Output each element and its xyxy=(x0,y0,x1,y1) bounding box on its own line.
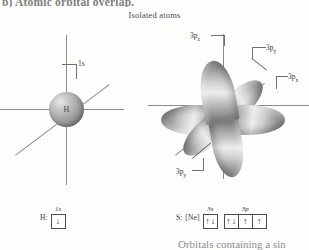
sulfur-label-3py-lower-left-base: 3p xyxy=(176,167,184,176)
sulfur-subshell-3s-boxes xyxy=(203,214,218,229)
arrow-up-icon xyxy=(205,217,210,226)
arrow-up-icon xyxy=(226,217,231,226)
hydrogen-nucleus-label: H xyxy=(49,92,84,127)
orbital-box xyxy=(238,214,253,229)
sulfur-label-3px-right: 3px xyxy=(288,73,298,83)
sulfur-label-3px-right-base: 3p xyxy=(288,72,296,81)
orbital-box xyxy=(51,214,66,229)
arrow-down-icon xyxy=(211,217,216,226)
sulfur-label-3py-lower-left-sub: y xyxy=(184,172,187,178)
sulfur-config-symbol: S: xyxy=(176,213,182,222)
orbital-box-arrows xyxy=(52,215,65,228)
sulfur-label-3pz-top: 3pz xyxy=(190,32,200,42)
sulfur-label-3py-upper-right-base: 3p xyxy=(266,43,274,52)
cropped-heading-text: b) Atomic orbital overlap. xyxy=(2,0,192,7)
sulfur-leader-3pz-top xyxy=(211,35,225,46)
arrow-up-icon xyxy=(257,217,262,226)
hydrogen-config-symbol: H: xyxy=(40,213,48,222)
hydrogen-1s-label: 1s xyxy=(78,60,85,68)
sulfur-leader-3py-lower-left xyxy=(192,158,204,171)
orbital-box xyxy=(203,214,218,229)
cropped-caption-text: Orbitals containing a sin xyxy=(178,238,309,250)
orbital-box-arrows xyxy=(204,215,217,228)
hydrogen-1s-leader xyxy=(62,64,77,79)
sulfur-label-3py-upper-right-sub: y xyxy=(274,48,277,54)
sulfur-leader-3py-upper-right xyxy=(252,47,266,59)
sulfur-subshell-3p-boxes xyxy=(224,214,267,229)
sulfur-leader-3px-right xyxy=(276,76,288,89)
sulfur-config-core: [Ne] xyxy=(185,213,200,222)
sulfur-electron-configuration: S: [Ne] 3s 3p xyxy=(176,205,273,229)
sulfur-leader-3py-upper-right-tail xyxy=(251,58,267,70)
arrow-down-icon xyxy=(232,217,237,226)
hydrogen-subshell-1s-label: 1s xyxy=(55,205,61,213)
sulfur-label-3pz-top-base: 3p xyxy=(190,31,198,40)
arrow-down-icon xyxy=(56,217,61,226)
sulfur-label-3py-lower-left: 3py xyxy=(176,168,186,178)
sulfur-subshell-3s: 3s xyxy=(203,205,218,229)
hydrogen-subshell-1s-boxes xyxy=(51,214,66,229)
hydrogen-subshell-1s: 1s xyxy=(51,205,66,229)
orbital-box xyxy=(252,214,267,229)
sulfur-subshell-3p-label: 3p xyxy=(242,205,249,213)
orbital-box-arrows xyxy=(239,215,252,228)
figure-canvas: b) Atomic orbital overlap. Isolated atom… xyxy=(0,0,309,250)
sulfur-subshell-3s-label: 3s xyxy=(207,205,213,213)
sulfur-label-3px-right-sub: x xyxy=(296,77,299,83)
sulfur-label-3pz-top-sub: z xyxy=(198,36,200,42)
hydrogen-electron-configuration: H: 1s xyxy=(40,205,72,229)
sulfur-subshell-3p: 3p xyxy=(224,205,267,229)
orbital-box-arrows xyxy=(253,215,266,228)
sulfur-label-3py-upper-right: 3py xyxy=(266,44,276,54)
orbital-box-arrows xyxy=(225,215,238,228)
arrow-up-icon xyxy=(243,217,248,226)
section-title: Isolated atoms xyxy=(0,10,309,20)
orbital-box xyxy=(224,214,239,229)
